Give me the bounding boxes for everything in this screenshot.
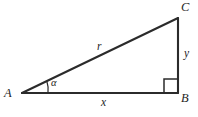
side-label-y: y xyxy=(184,48,189,60)
side-label-r: r xyxy=(97,41,101,53)
triangle-drawing xyxy=(0,0,198,117)
vertex-label-b: B xyxy=(181,92,189,105)
vertex-label-a: A xyxy=(4,87,12,100)
right-angle-marker xyxy=(164,79,178,93)
angle-alpha-arc xyxy=(47,82,48,94)
angle-label-alpha: α xyxy=(51,78,57,89)
side-label-x: x xyxy=(101,97,106,109)
geometry-figure: A B C r x y α xyxy=(0,0,198,117)
side-hypotenuse-line xyxy=(22,18,178,93)
vertex-label-c: C xyxy=(181,1,189,14)
